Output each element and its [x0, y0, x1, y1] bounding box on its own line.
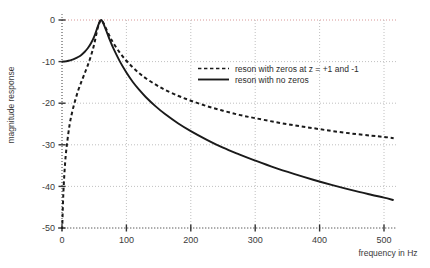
y-tick-label: -30 [42, 140, 55, 150]
magnitude-response-chart: 0-10-20-30-40-500100200300400500 frequen… [0, 0, 430, 268]
x-tick-label: 300 [248, 235, 263, 245]
y-tick-label: -20 [42, 98, 55, 108]
y-tick-label: 0 [50, 15, 55, 25]
x-tick-label: 400 [312, 235, 327, 245]
x-tick-label: 0 [59, 235, 64, 245]
x-tick-label: 200 [183, 235, 198, 245]
legend-label-1: reson with no zeros [235, 75, 309, 85]
y-axis-title: magnitude response [6, 66, 16, 143]
y-tick-label: -40 [42, 182, 55, 192]
y-tick-label: -50 [42, 223, 55, 233]
legend-label-0: reson with zeros at z = +1 and -1 [235, 64, 359, 74]
x-axis-title: frequency in Hz [358, 248, 417, 258]
figure-container: 0-10-20-30-40-500100200300400500 frequen… [0, 0, 430, 268]
x-tick-label: 500 [376, 235, 391, 245]
x-tick-label: 100 [119, 235, 134, 245]
y-tick-label: -10 [42, 57, 55, 67]
